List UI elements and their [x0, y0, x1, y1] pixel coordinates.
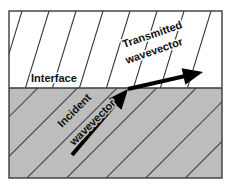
- wave-refraction-diagram: Interface Interface Transmitted Transmit…: [0, 0, 232, 185]
- interface-label-text: Interface: [31, 72, 77, 84]
- diagram-canvas: Interface Interface Transmitted Transmit…: [0, 0, 232, 185]
- interface-label: Interface Interface: [31, 72, 77, 84]
